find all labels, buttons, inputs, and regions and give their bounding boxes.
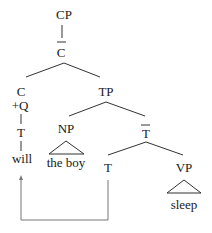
arrowhead-icon xyxy=(19,175,23,180)
node-c: C xyxy=(17,84,26,99)
node-t-head: T xyxy=(104,160,112,175)
node-t-left: T xyxy=(17,125,25,140)
word-will: will xyxy=(12,151,33,166)
np-triangle xyxy=(49,141,84,154)
node-vp: VP xyxy=(176,160,193,175)
node-np: NP xyxy=(58,121,75,136)
movement-arrow-line xyxy=(21,178,108,220)
node-tp: TP xyxy=(98,84,113,99)
vp-triangle xyxy=(167,180,201,193)
node-c-bar: C xyxy=(57,45,66,60)
word-sleep: sleep xyxy=(171,197,198,212)
branch-cbar-tp xyxy=(64,63,100,77)
branch-tp-tbar xyxy=(106,102,145,116)
feature-plus-q: +Q xyxy=(12,98,29,113)
node-cp: CP xyxy=(56,7,72,22)
branch-tbar-vp xyxy=(146,142,183,155)
branch-cbar-c xyxy=(26,63,64,77)
syntax-tree: CP C C +Q T will TP NP the boy T T VP sl… xyxy=(0,0,212,233)
branch-tbar-t xyxy=(108,142,146,155)
node-t-bar: T xyxy=(142,126,150,141)
branch-tp-np xyxy=(69,102,106,116)
phrase-the-boy: the boy xyxy=(47,155,86,170)
